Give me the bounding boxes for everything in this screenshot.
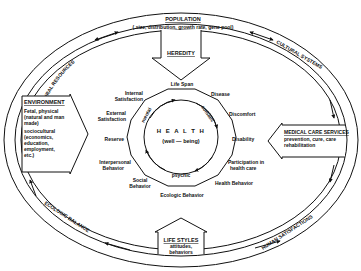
somatic-label: somatic <box>200 104 216 123</box>
medical-care-title: MEDICAL CARE SERVICES <box>284 129 349 135</box>
social-behavior-label-2: Behavior <box>129 183 150 189</box>
health-title: H E A L T H <box>157 128 206 134</box>
life-styles-line: behaviors <box>169 249 193 255</box>
psychic-label: psychic <box>172 172 191 178</box>
reserve-label: Reserve <box>105 136 125 142</box>
life-span-label: Life Span <box>171 81 194 87</box>
mental-label: mental <box>140 106 153 124</box>
medical-care-line: rehabilitation <box>284 142 315 148</box>
environment-title: ENVIRONMENT <box>24 99 65 105</box>
population-subtitle: ( size, distribution, growth rate, gene … <box>133 24 234 30</box>
environment-arrow: ENVIRONMENT Fetal, physical (natural and… <box>22 94 88 174</box>
heredity-arrow: HEREDITY <box>152 30 210 80</box>
participation-label-2: health care <box>230 165 257 171</box>
interpersonal-behavior-label-2: Behavior <box>103 165 124 171</box>
environment-line: etc.) <box>24 152 35 158</box>
medical-care-arrow: MEDICAL CARE SERVICES prevention, cure, … <box>268 123 349 159</box>
ecologic-behavior-label: Ecologic Behavior <box>160 192 204 198</box>
health-ecology-diagram: POPULATION ( size, distribution, growth … <box>0 0 361 271</box>
discomfort-label: Discomfort <box>229 111 256 117</box>
disability-label: Disability <box>232 136 254 142</box>
ecologic-balance-label: ECOLOGIC BALANCE <box>43 200 91 234</box>
internal-satisfaction-label-2: Satisfaction <box>115 96 143 102</box>
health-subtitle: (well — being) <box>162 138 199 144</box>
population-title: POPULATION <box>165 16 201 22</box>
health-behavior-label: Health Behavior <box>215 180 253 186</box>
cultural-systems-label: CULTURAL SYSTEMS <box>276 39 325 71</box>
external-satisfaction-label-2: Satisfaction <box>98 116 126 122</box>
life-styles-arrow: LIFE STYLES attitudes, behaviors <box>155 218 207 255</box>
environment-line: made) <box>24 120 39 126</box>
disease-label: Disease <box>211 91 230 97</box>
heredity-title: HEREDITY <box>167 50 195 56</box>
